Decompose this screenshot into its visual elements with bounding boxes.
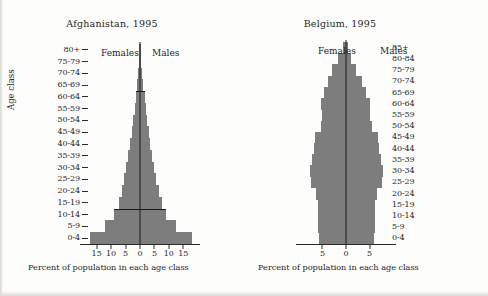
bar-male bbox=[346, 76, 362, 88]
x-axis-title-belgium: Percent of population in each age class bbox=[258, 262, 419, 272]
bar-female bbox=[312, 154, 346, 166]
y-tick-label: 20-24 bbox=[392, 190, 415, 198]
bar-male bbox=[346, 98, 370, 110]
y-tick-label: 70-74 bbox=[57, 69, 80, 77]
bar-female bbox=[315, 132, 346, 144]
x-tick-label: 5 bbox=[123, 250, 128, 258]
y-axis-title: Age class bbox=[6, 69, 16, 110]
y-tick-label: 10-14 bbox=[392, 212, 415, 220]
y-tick-label: 50-54 bbox=[392, 122, 415, 130]
label-females-afghanistan: Females bbox=[101, 48, 139, 58]
bar-male bbox=[346, 210, 375, 222]
x-tick-label: 10 bbox=[164, 250, 174, 258]
bar-male bbox=[346, 87, 366, 99]
bar-female bbox=[114, 209, 140, 221]
bar-male bbox=[140, 91, 145, 103]
y-tick-label: 35-39 bbox=[392, 156, 415, 164]
chart-title-belgium: Belgium, 1995 bbox=[218, 18, 462, 29]
y-tick-label: 0-4 bbox=[392, 234, 405, 242]
bar-male bbox=[346, 199, 375, 211]
bar-male bbox=[140, 232, 192, 244]
bar-female bbox=[316, 188, 346, 200]
y-tick-label: 25-29 bbox=[57, 175, 80, 183]
bar-male bbox=[140, 173, 156, 185]
x-tick-label: 5 bbox=[367, 250, 372, 258]
label-females-belgium: Females bbox=[318, 46, 356, 56]
bar-female bbox=[324, 87, 346, 99]
bar-male bbox=[346, 121, 372, 133]
y-tick-label: 75-79 bbox=[392, 66, 415, 74]
bar-female bbox=[328, 76, 346, 88]
bar-male bbox=[140, 115, 147, 127]
annotation-line-15-19 bbox=[114, 209, 166, 210]
x-axis-title-afghanistan: Percent of population in each age class bbox=[28, 262, 189, 272]
bar-male bbox=[346, 177, 382, 189]
bar-male bbox=[346, 109, 370, 121]
plot-area-belgium bbox=[306, 42, 386, 244]
center-axis-belgium bbox=[346, 40, 347, 244]
y-tick-label: 60-64 bbox=[57, 93, 80, 101]
bar-female bbox=[126, 162, 140, 174]
bar-male bbox=[346, 64, 356, 76]
y-axis-belgium: 0-45-910-1415-1920-2425-2930-3435-3940-4… bbox=[392, 40, 442, 244]
bar-male bbox=[140, 138, 150, 150]
bar-female bbox=[321, 98, 346, 110]
bar-male bbox=[346, 165, 383, 177]
bar-male bbox=[140, 209, 166, 221]
y-tick-label: 40-44 bbox=[57, 140, 80, 148]
label-males-afghanistan: Males bbox=[152, 48, 179, 58]
center-axis-afghanistan bbox=[140, 42, 141, 244]
bar-female bbox=[311, 177, 346, 189]
label-males-belgium: Males bbox=[380, 46, 407, 56]
y-tick-label: 0-4 bbox=[67, 234, 80, 242]
y-tick-label: 40-44 bbox=[392, 145, 415, 153]
y-tick-label: 80-84 bbox=[392, 55, 415, 63]
y-tick-label: 45-49 bbox=[57, 128, 80, 136]
y-tick-label: 70-74 bbox=[392, 77, 415, 85]
bar-female bbox=[124, 173, 140, 185]
bar-female bbox=[321, 121, 346, 133]
x-tick-label: 10 bbox=[106, 250, 116, 258]
bar-male bbox=[346, 233, 374, 245]
plot-area-afghanistan bbox=[88, 44, 192, 244]
bar-male bbox=[346, 143, 379, 155]
y-tick-label: 35-39 bbox=[57, 152, 80, 160]
bar-female bbox=[90, 232, 140, 244]
y-tick-label: 5-9 bbox=[67, 222, 80, 230]
bar-male bbox=[140, 126, 149, 138]
y-tick-label: 50-54 bbox=[57, 116, 80, 124]
y-tick-label: 60-64 bbox=[392, 100, 415, 108]
y-tick-label: 75-79 bbox=[57, 58, 80, 66]
bar-female bbox=[332, 64, 346, 76]
x-tick-label: 15 bbox=[92, 250, 102, 258]
bar-male bbox=[140, 185, 159, 197]
bar-male bbox=[346, 188, 377, 200]
bar-female bbox=[122, 185, 140, 197]
y-tick-label: 80+ bbox=[63, 46, 80, 54]
bar-male bbox=[140, 79, 143, 91]
bar-female bbox=[319, 233, 346, 245]
y-tick-label: 25-29 bbox=[392, 178, 415, 186]
bar-male bbox=[140, 220, 176, 232]
y-tick-label: 45-49 bbox=[392, 133, 415, 141]
bar-female bbox=[119, 197, 140, 209]
y-tick-label: 65-69 bbox=[392, 89, 415, 97]
bar-male bbox=[140, 197, 162, 209]
chart-title-afghanistan: Afghanistan, 1995 bbox=[0, 18, 234, 29]
x-tick-label: 5 bbox=[152, 250, 157, 258]
annotation-line-65-69 bbox=[136, 91, 145, 92]
bar-female bbox=[310, 165, 346, 177]
bar-male bbox=[140, 150, 152, 162]
bar-male bbox=[346, 132, 378, 144]
y-tick-label: 30-34 bbox=[57, 164, 80, 172]
bar-female bbox=[318, 210, 346, 222]
bar-male bbox=[346, 154, 381, 166]
bar-male bbox=[140, 103, 146, 115]
x-tick-label: 5 bbox=[320, 250, 325, 258]
x-tick-label: 0 bbox=[137, 250, 142, 258]
y-axis-afghanistan: 0-45-910-1415-1920-2425-2930-3435-3940-4… bbox=[26, 44, 88, 244]
y-tick-label: 55-59 bbox=[392, 111, 415, 119]
y-tick-label: 5-9 bbox=[392, 223, 405, 231]
bar-female bbox=[318, 222, 346, 234]
y-tick-label: 30-34 bbox=[392, 167, 415, 175]
